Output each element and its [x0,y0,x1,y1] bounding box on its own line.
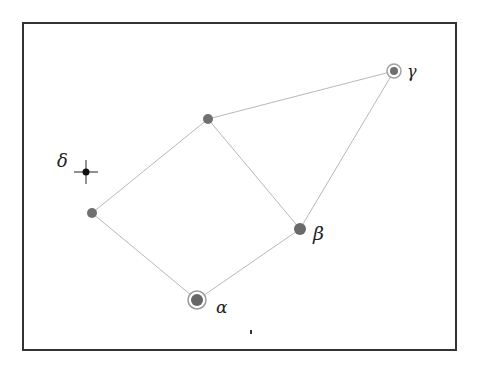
node-left[interactable] [87,208,97,218]
label-delta: δ [57,150,68,171]
node-beta[interactable] [294,223,306,235]
edge-gamma-beta [300,71,394,229]
label-alpha: α [216,297,228,317]
node-top[interactable] [203,114,213,124]
node-gamma[interactable] [390,67,398,75]
stray-mark [250,330,252,334]
node-alpha[interactable] [191,294,203,306]
graph-diagram: γ β α δ [0,0,480,380]
delta-point[interactable] [83,169,90,176]
edge-top-beta [208,119,300,229]
edges [92,71,394,300]
edge-alpha-beta [197,229,300,300]
edge-left-alpha [92,213,197,300]
delta-marker [74,160,98,184]
edge-top-gamma [208,71,394,119]
label-beta: β [312,222,324,244]
edge-top-left [92,119,208,213]
label-gamma: γ [407,62,417,81]
nodes [87,64,401,309]
